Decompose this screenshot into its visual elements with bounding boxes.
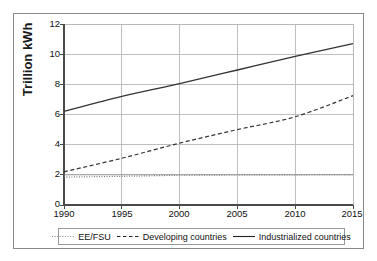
y-axis-tick-label: 6 [38, 109, 60, 119]
legend-item-developing-countries: Developing countries [117, 232, 227, 242]
dotted-line-key [52, 233, 74, 240]
dashed-line-key [117, 233, 139, 240]
x-axis-tick-label: 2005 [216, 209, 258, 219]
x-axis-tick-label: 1990 [43, 209, 85, 219]
legend-label: Industrialized countries [259, 232, 351, 242]
legend-item-ee-fsu: EE/FSU [52, 232, 111, 242]
solid-line-key [233, 233, 255, 240]
y-axis-tick-label: 10 [38, 49, 60, 59]
chart-legend: EE/FSU Developing countries Industrializ… [58, 228, 345, 245]
x-axis-tick-label: 2010 [274, 209, 316, 219]
legend-item-industrialized-countries: Industrialized countries [233, 232, 351, 242]
chart-figure: Trillion kWh 12 10 8 6 4 2 0 1990 1995 2… [0, 0, 377, 261]
y-axis-tick-label: 4 [38, 139, 60, 149]
legend-label: Developing countries [143, 232, 227, 242]
y-axis-tick-label: 8 [38, 79, 60, 89]
y-axis-title: Trillion kWh [20, 0, 35, 120]
x-axis-tick-label: 2015 [331, 209, 373, 219]
y-axis-tick-label: 2 [38, 169, 60, 179]
x-axis-tick-label: 1995 [101, 209, 143, 219]
y-axis-tick-label: 12 [38, 19, 60, 29]
legend-label: EE/FSU [78, 232, 111, 242]
x-axis-tick-label: 2000 [158, 209, 200, 219]
